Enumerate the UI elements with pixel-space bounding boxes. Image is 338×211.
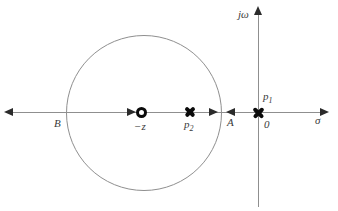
arrowhead-toward-zero-icon xyxy=(127,108,136,116)
zero-marker-icon xyxy=(136,107,147,118)
pole2-label-sub: 2 xyxy=(190,124,194,133)
pole1-label-sub: 1 xyxy=(269,96,273,105)
pole2-label: p2 xyxy=(184,118,194,130)
origin-label: 0 xyxy=(264,118,270,130)
sigma-axis-label: σ xyxy=(315,114,320,126)
break-point-B-label: B xyxy=(54,117,61,129)
arrowhead-toward-A-left-icon xyxy=(209,108,218,116)
pole1-label: p1 xyxy=(263,90,273,102)
jomega-axis-label: jω xyxy=(238,8,249,20)
arrowhead-toward-A-right-icon xyxy=(226,108,235,116)
arrowhead-axis-up-icon xyxy=(254,6,262,15)
zero-label: −z xyxy=(134,120,146,132)
arrowhead-axis-right-icon xyxy=(320,108,329,116)
break-point-A-label: A xyxy=(227,116,234,128)
arrowhead-axis-left-icon xyxy=(4,108,13,116)
pole2-marker-icon xyxy=(184,106,196,118)
root-locus-diagram: jω σ B −z p2 A p1 0 xyxy=(0,0,338,211)
